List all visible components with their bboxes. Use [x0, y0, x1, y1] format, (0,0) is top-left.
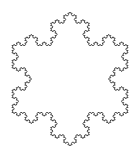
koch-snowflake-diagram — [0, 0, 140, 157]
koch-snowflake-outline — [12, 12, 128, 146]
